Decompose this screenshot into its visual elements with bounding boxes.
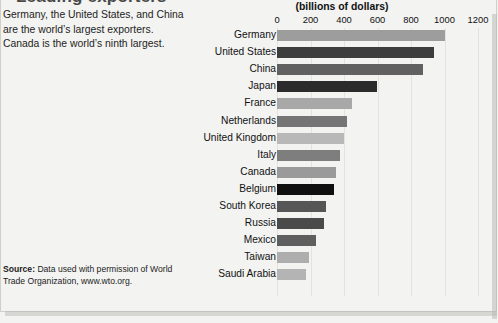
bar-mexico [277, 235, 316, 246]
bar-row: Italy [196, 148, 498, 165]
bar-row: Saudi Arabia [196, 267, 498, 284]
bar-united-kingdom [277, 133, 344, 144]
category-label: France [244, 97, 276, 108]
category-label: Belgium [239, 183, 276, 194]
category-label: Mexico [244, 234, 276, 245]
figure-caption: Germany, the United States, and China ar… [3, 8, 191, 52]
bar-belgium [277, 184, 334, 195]
bar-row: Russia [196, 216, 498, 233]
bar-row: Belgium [196, 182, 498, 199]
category-label: Germany [234, 29, 276, 40]
category-label: Netherlands [221, 115, 276, 126]
bar-russia [277, 218, 324, 229]
bar-row: Japan [196, 79, 498, 96]
x-axis-tick-labels: 020040060080010001200 [196, 14, 498, 25]
x-tick-0: 0 [274, 14, 279, 25]
bar-row: United Kingdom [196, 131, 498, 148]
category-label: United Kingdom [204, 132, 277, 143]
category-label: Russia [245, 217, 276, 228]
bar-row: United States [196, 45, 498, 62]
bar-italy [277, 150, 340, 161]
bar-china [277, 64, 423, 75]
bar-chart: (billions of dollars) 020040060080010001… [196, 0, 498, 300]
plot-area: GermanyUnited StatesChinaJapanFranceNeth… [196, 28, 498, 296]
bar-south-korea [277, 201, 326, 212]
category-label: Italy [257, 149, 276, 160]
source-label: Source: [3, 264, 35, 274]
x-tick-600: 600 [370, 14, 386, 25]
category-label: Saudi Arabia [218, 268, 276, 279]
figure-page: Leading exporters Germany, the United St… [0, 0, 498, 323]
bar-netherlands [277, 116, 347, 127]
category-label: Canada [240, 166, 276, 177]
bar-japan [277, 81, 377, 92]
bar-row: Netherlands [196, 114, 498, 131]
figure-source: Source: Data used with permission of Wor… [3, 264, 193, 287]
page-frame-shadow-bottom [5, 311, 497, 316]
bar-row: Canada [196, 165, 498, 182]
x-tick-1000: 1000 [434, 14, 455, 25]
category-label: United States [215, 46, 276, 57]
bar-row: Taiwan [196, 250, 498, 267]
bar-canada [277, 167, 336, 178]
bar-row: South Korea [196, 199, 498, 216]
bar-united-states [277, 47, 434, 58]
bar-row: Germany [196, 28, 498, 45]
category-label: Taiwan [244, 251, 276, 262]
x-tick-800: 800 [403, 14, 419, 25]
bar-row: France [196, 96, 498, 113]
category-label: China [249, 63, 276, 74]
bar-row: China [196, 62, 498, 79]
category-label: Japan [248, 80, 276, 91]
x-axis-title: (billions of dollars) [196, 1, 488, 12]
x-tick-400: 400 [336, 14, 352, 25]
bar-germany [277, 30, 445, 41]
bar-saudi-arabia [277, 269, 306, 280]
category-label: South Korea [219, 200, 276, 211]
bar-taiwan [277, 252, 309, 263]
bar-france [277, 98, 352, 109]
x-tick-200: 200 [303, 14, 319, 25]
figure-headline: Leading exporters [16, 0, 167, 7]
bar-row: Mexico [196, 233, 498, 250]
x-tick-1200: 1200 [468, 14, 489, 25]
